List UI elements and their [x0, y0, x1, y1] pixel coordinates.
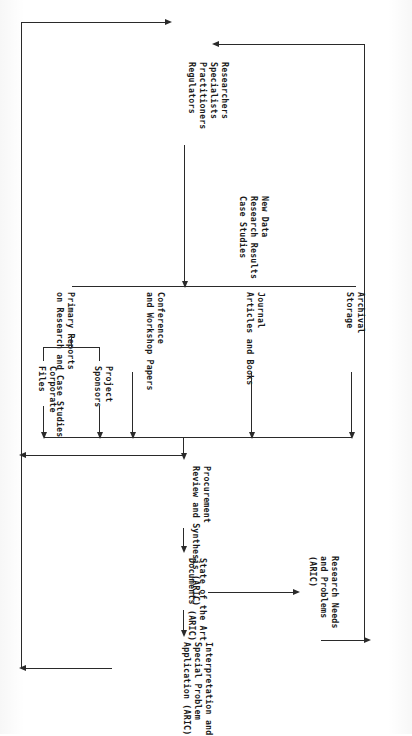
- node-research-needs-label: Research Needs and Problems (ARIC): [308, 556, 340, 629]
- node-state-of-art-label: State of the Art Documents (ARIC): [187, 558, 208, 641]
- edge-project-sponsors-run: [99, 406, 100, 434]
- primary-reports-stem: [71, 334, 72, 347]
- edge-conference-run: [132, 372, 133, 434]
- node-journal-articles: Journal Articles and Books: [244, 292, 266, 386]
- node-state-of-art: State of the Art Documents (ARIC): [186, 558, 208, 641]
- edge-procurement-to-state: [183, 528, 184, 548]
- edge-interpretation-feedback-horizontal: [21, 22, 22, 668]
- edge-interpretation-drop: [22, 668, 112, 669]
- edge-feedback-riser-left: [22, 22, 166, 23]
- edge-state-to-research-needs: [208, 592, 294, 593]
- arrowhead-procurement-to-state: [182, 546, 188, 553]
- edge-corporate-files-run: [43, 406, 44, 434]
- node-conference-papers: Conference and Workshop Papers: [144, 292, 166, 391]
- node-conference-papers-label: Conference and Workshop Papers: [145, 292, 166, 391]
- node-project-sponsors: Project Sponsors: [92, 366, 114, 408]
- node-project-sponsors-label: Project Sponsors: [93, 366, 114, 408]
- edge-archival-run: [351, 372, 352, 434]
- edge-research-needs-riser: [321, 640, 365, 641]
- arrowhead-state-to-research-needs: [293, 589, 300, 595]
- arrowhead-producers-in: [212, 41, 219, 47]
- node-journal-articles-label: Journal Articles and Books: [245, 292, 266, 386]
- primary-reports-bracket-bottom: [43, 347, 44, 361]
- arrowhead-feedback-left-up: [165, 19, 172, 25]
- node-interpretation-label: Interpretation and Special Problem Appli…: [182, 642, 214, 736]
- arrowhead-procurement-down: [19, 452, 26, 458]
- node-interpretation: Interpretation and Special Problem Appli…: [181, 642, 214, 736]
- node-new-data-label: New Data Research Results Case Studies: [238, 196, 270, 279]
- node-archival-storage-label: Archival Storage: [345, 292, 366, 334]
- node-corporate-files-label: Corporate Files: [37, 366, 58, 413]
- node-research-needs: Research Needs and Problems (ARIC): [307, 556, 340, 629]
- arrowhead-state-to-interpretation: [182, 630, 188, 637]
- arrowhead-interpretation-down: [19, 665, 26, 671]
- edge-producers-to-spine: [184, 145, 185, 283]
- node-corporate-files: Corporate Files: [36, 366, 58, 413]
- literature-spine: [72, 286, 356, 287]
- node-primary-reports-label: Primary Reports on Research and Case Stu…: [55, 292, 76, 437]
- node-new-data: New Data Research Results Case Studies: [237, 196, 270, 279]
- arrowhead-collector-to-procurement: [182, 453, 188, 460]
- node-producers-label: Researchers Specialists Practitioners Re…: [187, 62, 230, 130]
- edge-to-producers-drop: [217, 44, 365, 45]
- primary-reports-bracket-top: [99, 347, 100, 361]
- edge-procurement-down: [22, 455, 184, 456]
- node-primary-reports: Primary Reports on Research and Case Stu…: [54, 292, 76, 437]
- arrowhead-research-needs-up: [364, 637, 371, 643]
- node-producers: Researchers Specialists Practitioners Re…: [186, 62, 230, 130]
- collector-bus: [44, 437, 352, 438]
- edge-journal-run: [251, 372, 252, 434]
- primary-reports-bracket-vertical: [44, 347, 100, 348]
- edge-state-to-interpretation: [183, 610, 184, 632]
- node-archival-storage: Archival Storage: [344, 292, 366, 334]
- edge-research-needs-to-producers-horizontal: [364, 44, 365, 640]
